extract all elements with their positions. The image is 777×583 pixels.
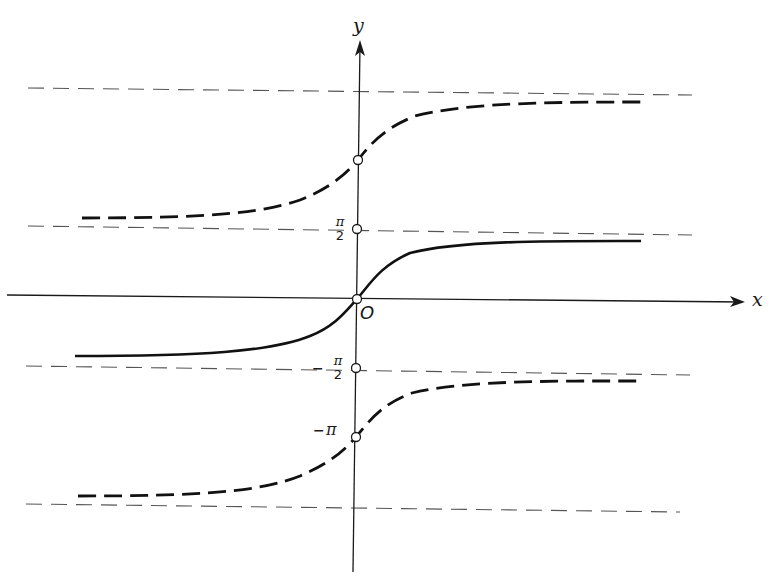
marked-points: [352, 156, 363, 442]
label-pi-over-2-numerator: π: [332, 215, 348, 229]
y-axis-label: y: [353, 14, 364, 36]
x-axis: [7, 295, 745, 307]
upper-branch-curve: [82, 102, 646, 218]
label-neg-pi-sign: −: [313, 422, 325, 438]
origin-label: O: [360, 302, 374, 323]
label-neg-pi-over-2: π 2: [330, 354, 346, 382]
label-neg-pi-symbol: π: [326, 420, 337, 439]
arctan-branches-diagram: [0, 0, 777, 583]
label-neg-pi-over-2-numerator: π: [330, 354, 346, 368]
asymptote-neg-3pi-over-2: [26, 504, 680, 512]
x-axis-label: x: [752, 288, 763, 310]
point-pi: [354, 156, 363, 165]
label-neg-pi-over-2-sign: −: [312, 360, 324, 376]
label-pi-over-2-denominator: 2: [332, 229, 348, 243]
label-neg-pi-over-2-denominator: 2: [330, 368, 346, 382]
point-neg-pi: [352, 433, 361, 442]
point-pi-over-2: [353, 225, 362, 234]
point-neg-pi-over-2: [352, 364, 361, 373]
label-pi-over-2: π 2: [332, 215, 348, 243]
